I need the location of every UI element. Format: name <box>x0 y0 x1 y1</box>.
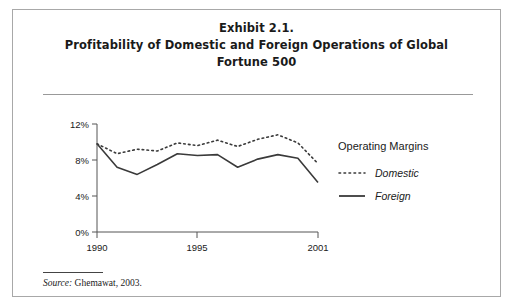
legend-swatch-solid-icon <box>338 191 366 201</box>
exhibit-title-line-3: Fortune 500 <box>13 54 500 71</box>
legend-label-foreign: Foreign <box>375 190 411 202</box>
y-tick-label-4: 4% <box>75 191 89 202</box>
legend-swatch-dotted-icon <box>338 168 366 178</box>
y-tick-label-8: 8% <box>75 155 89 166</box>
exhibit-page: Exhibit 2.1. Profitability of Domestic a… <box>0 0 513 307</box>
exhibit-border-box: Exhibit 2.1. Profitability of Domestic a… <box>12 9 501 297</box>
exhibit-title-line-2: Profitability of Domestic and Foreign Op… <box>13 37 500 54</box>
series-line-foreign <box>97 144 318 183</box>
x-tick-label-1990: 1990 <box>86 242 107 253</box>
exhibit-title-line-1: Exhibit 2.1. <box>13 20 500 37</box>
exhibit-title-block: Exhibit 2.1. Profitability of Domestic a… <box>13 20 500 71</box>
x-axis-tick-labels: 1990 1995 2001 <box>86 242 328 253</box>
series-line-domestic <box>97 135 318 164</box>
source-text: Ghemawat, 2003. <box>75 278 142 288</box>
legend-title: Operating Margins <box>338 140 498 152</box>
title-divider <box>43 94 473 95</box>
source-divider <box>43 272 103 273</box>
legend-label-domestic: Domestic <box>375 167 419 179</box>
source-prefix: Source: <box>43 278 72 288</box>
legend-item-domestic: Domestic <box>338 166 498 179</box>
x-tick-label-2001: 2001 <box>307 242 328 253</box>
chart-svg: 12% 8% 4% 0% 1990 <box>33 105 333 255</box>
y-tick-label-12: 12% <box>70 119 90 130</box>
axis-lines <box>92 124 318 238</box>
legend-item-foreign: Foreign <box>338 189 498 202</box>
source-note: Source: Ghemawat, 2003. <box>43 278 142 288</box>
chart-legend: Operating Margins Domestic Foreign <box>338 140 498 212</box>
x-tick-label-1995: 1995 <box>186 242 207 253</box>
y-tick-label-0: 0% <box>75 227 89 238</box>
y-axis-tick-labels: 12% 8% 4% 0% <box>70 119 90 238</box>
